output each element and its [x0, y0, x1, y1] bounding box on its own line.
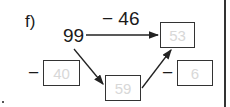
- arrow-up: [142, 50, 171, 88]
- column-divider: [224, 0, 226, 107]
- arrows-diagram: [0, 0, 230, 107]
- arrow-down: [74, 49, 103, 84]
- stray-dot: [2, 101, 4, 103]
